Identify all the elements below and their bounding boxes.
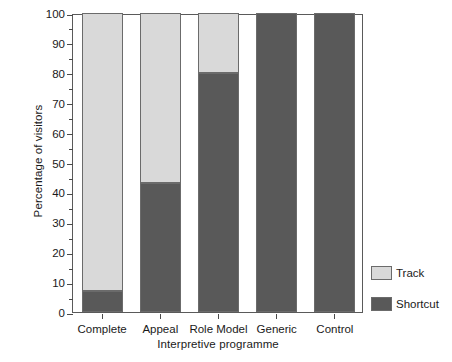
y-tick-mark [67,284,73,285]
bar-group [82,13,123,312]
y-tick-label: 90 [21,39,65,51]
x-tick-mark [276,314,277,319]
x-tick-mark [218,314,219,319]
legend-label: Shortcut [396,296,439,312]
y-minor-tick-mark [69,239,73,240]
y-tick-label: 50 [21,159,65,171]
y-tick-mark [67,224,73,225]
y-tick-mark [67,164,73,165]
legend-swatch-icon [371,297,392,311]
bar-group [256,13,297,312]
y-minor-tick-mark [69,299,73,300]
legend-swatch-icon [371,266,392,280]
y-tick-label: 40 [21,188,65,200]
x-tick-mark [334,314,335,319]
y-tick-mark [67,74,73,75]
x-axis-title: Interpretive programme [72,338,364,350]
bar-group [314,13,355,312]
x-tick-mark [102,314,103,319]
bar-segment-track [140,13,181,183]
y-tick-label: 20 [21,248,65,260]
y-minor-tick-mark [69,209,73,210]
y-tick-label: 0 [21,308,65,320]
y-tick-mark [67,104,73,105]
bar-segment-shortcut [140,183,181,312]
x-tick-label: Control [290,323,380,335]
bar-group [140,13,181,312]
y-minor-tick-mark [69,89,73,90]
y-tick-label: 30 [21,218,65,230]
bar-segment-shortcut [314,13,355,312]
y-tick-mark [67,194,73,195]
legend-label: Track [396,265,424,281]
y-minor-tick-mark [69,119,73,120]
y-minor-tick-mark [69,149,73,150]
y-tick-label: 80 [21,69,65,81]
y-tick-mark [67,15,73,16]
bar-segment-track [198,13,239,73]
bar-segment-shortcut [256,13,297,312]
y-minor-tick-mark [69,59,73,60]
y-tick-label: 60 [21,129,65,141]
y-minor-tick-mark [69,179,73,180]
bar-segment-shortcut [198,73,239,312]
x-tick-mark [160,314,161,319]
y-tick-mark [67,44,73,45]
stacked-bar-chart: Percentage of visitors 01020304050607080… [0,0,452,362]
y-tick-label: 100 [21,9,65,21]
plot-area: 0102030405060708090100 CompleteAppealRol… [72,14,363,313]
bar-segment-shortcut [82,291,123,312]
y-minor-tick-mark [69,269,73,270]
y-tick-mark [67,254,73,255]
bar-segment-track [82,13,123,291]
y-minor-tick-mark [69,29,73,30]
bar-group [198,13,239,312]
y-tick-mark [67,134,73,135]
y-tick-mark [67,314,73,315]
y-tick-label: 70 [21,99,65,111]
y-tick-label: 10 [21,278,65,290]
